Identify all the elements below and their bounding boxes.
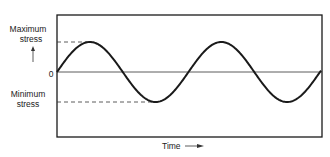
max-stress-label-line1: Maximum	[10, 24, 47, 34]
max-stress-label-line2: stress	[20, 34, 43, 44]
plot-frame	[57, 15, 322, 137]
time-axis-label: Time	[162, 141, 181, 151]
stress-time-diagram: Maximum stress 0 Minimum stress Time	[0, 0, 330, 157]
zero-label: 0	[49, 69, 54, 79]
right-arrow-icon	[185, 144, 204, 148]
min-stress-label-line1: Minimum	[11, 89, 45, 99]
min-stress-label-line2: stress	[17, 99, 40, 109]
up-arrow-icon	[31, 46, 35, 62]
